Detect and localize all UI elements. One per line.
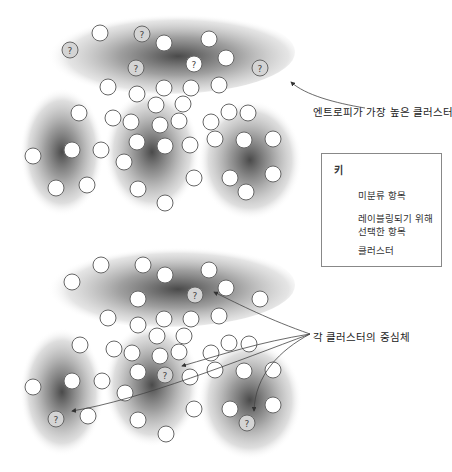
selected-item: ? bbox=[62, 42, 78, 58]
unlabeled-item bbox=[100, 310, 116, 326]
unlabeled-item bbox=[211, 308, 227, 324]
unlabeled-item bbox=[79, 177, 95, 193]
unlabeled-item bbox=[116, 154, 132, 170]
legend-label-selected-line1: 레이블링되기 위해 bbox=[358, 212, 433, 225]
unlabeled-item bbox=[241, 336, 257, 352]
legend-box: 키 미분류 항목 레이블링되기 위해 선택한 항목 클러스터 bbox=[321, 153, 442, 267]
unlabeled-item bbox=[201, 262, 217, 278]
unlabeled-item bbox=[25, 148, 41, 164]
unlabeled-item bbox=[156, 80, 172, 96]
unlabeled-item bbox=[48, 180, 64, 196]
question-mark-icon: ? bbox=[245, 419, 250, 429]
unlabeled-item bbox=[130, 317, 146, 333]
unlabeled-item bbox=[265, 131, 281, 147]
selected-item: ? bbox=[187, 287, 203, 303]
unlabeled-item bbox=[158, 426, 174, 442]
question-mark-icon: ? bbox=[54, 415, 59, 425]
unlabeled-item bbox=[183, 80, 199, 96]
unlabeled-item bbox=[236, 132, 252, 148]
unlabeled-item bbox=[105, 110, 121, 126]
unlabeled-item bbox=[240, 105, 256, 121]
unlabeled-item bbox=[25, 379, 41, 395]
unlabeled-item bbox=[64, 274, 80, 290]
selected-item: ? bbox=[252, 60, 268, 76]
unlabeled-item bbox=[64, 373, 80, 389]
unlabeled-item bbox=[182, 137, 198, 153]
legend-label-unlabeled: 미분류 항목 bbox=[358, 189, 406, 202]
selected-item: ? bbox=[239, 415, 255, 431]
unlabeled-item bbox=[149, 328, 165, 344]
highest-entropy-label: 엔트로피가 가장 높은 클러스터 bbox=[313, 104, 452, 119]
question-mark-icon: ? bbox=[68, 46, 73, 56]
unlabeled-item bbox=[157, 267, 173, 283]
unlabeled-item bbox=[130, 291, 146, 307]
unlabeled-item bbox=[130, 412, 146, 428]
unlabeled-item bbox=[129, 86, 145, 102]
unlabeled-item bbox=[92, 25, 108, 41]
unlabeled-item bbox=[222, 170, 238, 186]
unlabeled-item bbox=[183, 311, 199, 327]
unlabeled-item bbox=[123, 114, 139, 130]
selected-item: ? bbox=[48, 411, 64, 427]
unlabeled-item bbox=[93, 142, 109, 158]
question-mark-icon: ? bbox=[140, 30, 145, 40]
unlabeled-item bbox=[157, 195, 173, 211]
unlabeled-item bbox=[157, 138, 173, 154]
unlabeled-item bbox=[130, 181, 146, 197]
unlabeled-item bbox=[218, 280, 234, 296]
unlabeled-item bbox=[100, 79, 116, 95]
unlabeled-item bbox=[130, 364, 146, 380]
unlabeled-item bbox=[171, 344, 187, 360]
unlabeled-item bbox=[236, 363, 252, 379]
unlabeled-item bbox=[203, 345, 219, 361]
unlabeled-item bbox=[156, 311, 172, 327]
unlabeled-item bbox=[72, 337, 88, 353]
unlabeled-item bbox=[265, 397, 281, 413]
unlabeled-item bbox=[71, 105, 87, 121]
unlabeled-item bbox=[186, 170, 202, 186]
unlabeled-item bbox=[218, 50, 234, 66]
unlabeled-item bbox=[80, 408, 96, 424]
unlabeled-item bbox=[171, 113, 187, 129]
question-mark-icon: ? bbox=[193, 291, 198, 301]
unlabeled-item bbox=[152, 348, 168, 364]
unlabeled-item bbox=[238, 184, 254, 200]
unlabeled-item bbox=[221, 335, 237, 351]
legend-label-cluster: 클러스터 bbox=[358, 244, 394, 257]
selected-item: ? bbox=[134, 26, 150, 42]
unlabeled-item bbox=[175, 96, 191, 112]
legend-title: 키 bbox=[334, 162, 343, 177]
selected-item: ? bbox=[186, 56, 202, 72]
question-mark-icon: ? bbox=[163, 371, 168, 381]
legend-label-selected-line2: 선택한 항목 bbox=[358, 225, 406, 238]
unlabeled-item bbox=[93, 257, 109, 273]
selected-item: ? bbox=[128, 60, 144, 76]
unlabeled-item bbox=[201, 31, 217, 47]
unlabeled-item bbox=[64, 142, 80, 158]
question-mark-icon: ? bbox=[192, 60, 197, 70]
question-mark-icon: ? bbox=[134, 64, 139, 74]
unlabeled-item bbox=[156, 35, 172, 51]
unlabeled-item bbox=[207, 131, 223, 147]
unlabeled-item bbox=[135, 257, 151, 273]
unlabeled-item bbox=[106, 341, 122, 357]
unlabeled-item bbox=[221, 104, 237, 120]
question-mark-icon: ? bbox=[258, 64, 263, 74]
unlabeled-item bbox=[265, 166, 281, 182]
unlabeled-item bbox=[129, 134, 145, 150]
unlabeled-item bbox=[124, 345, 140, 361]
unlabeled-item bbox=[182, 369, 198, 385]
unlabeled-item bbox=[203, 114, 219, 130]
unlabeled-item bbox=[211, 77, 227, 93]
unlabeled-item bbox=[148, 97, 164, 113]
unlabeled-item bbox=[152, 117, 168, 133]
unlabeled-item bbox=[186, 401, 202, 417]
unlabeled-item bbox=[207, 362, 223, 378]
unlabeled-item bbox=[94, 373, 110, 389]
centroids-label: 각 클러스터의 중심체 bbox=[313, 329, 410, 344]
unlabeled-item bbox=[252, 291, 268, 307]
selected-item: ? bbox=[157, 367, 173, 383]
unlabeled-item bbox=[222, 401, 238, 417]
unlabeled-item bbox=[176, 328, 192, 344]
